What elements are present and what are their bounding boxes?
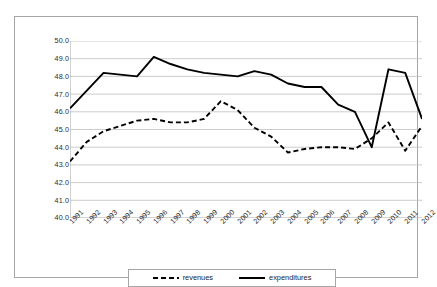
chart-frame: 50.049.048.047.046.045.044.043.042.041.0… — [14, 16, 418, 278]
y-tick-label: 42.0 — [29, 179, 69, 186]
y-axis: 50.049.048.047.046.045.044.043.042.041.0… — [29, 41, 69, 218]
y-tick-label: 43.0 — [29, 161, 69, 168]
x-axis: 1991199219931994199519961997199819992000… — [70, 220, 422, 266]
y-tick-label: 40.0 — [29, 214, 69, 221]
y-tick-label: 48.0 — [29, 73, 69, 80]
y-tick-label: 47.0 — [29, 91, 69, 98]
chart-legend: revenuesexpenditures — [128, 269, 336, 287]
y-tick-label: 45.0 — [29, 126, 69, 133]
x-tick-label: 2012 — [420, 208, 437, 225]
y-tick-label: 49.0 — [29, 55, 69, 62]
y-tick-label: 46.0 — [29, 108, 69, 115]
legend-line-swatch — [153, 274, 179, 282]
y-tick-label: 41.0 — [29, 197, 69, 204]
legend-entry: revenues — [153, 274, 213, 282]
legend-label: expenditures — [269, 274, 311, 281]
plot-svg — [70, 41, 422, 218]
series-line-expenditures — [70, 57, 422, 147]
series-line-revenues — [70, 101, 422, 161]
y-tick-label: 50.0 — [29, 37, 69, 44]
legend-line-swatch — [239, 274, 265, 282]
legend-label: revenues — [183, 274, 213, 281]
legend-entry: expenditures — [239, 274, 311, 282]
plot-area — [70, 41, 422, 218]
y-tick-label: 44.0 — [29, 144, 69, 151]
